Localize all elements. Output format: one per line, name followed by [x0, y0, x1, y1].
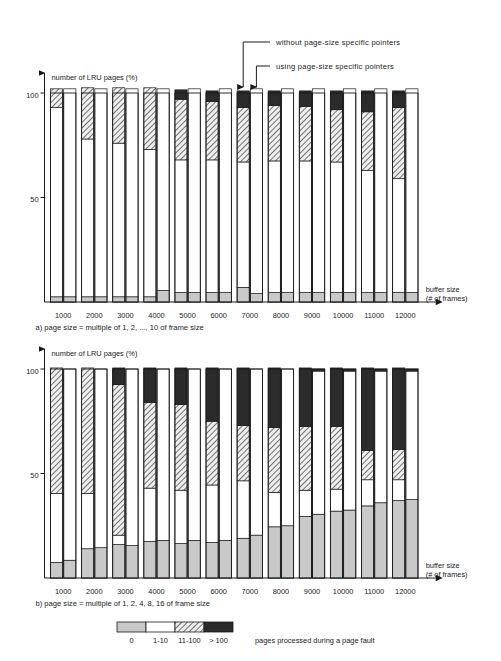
x-tick-label: 8000: [273, 587, 289, 596]
bar-segment: [113, 545, 125, 578]
bar-segment: [268, 161, 280, 293]
stacked-bar: [206, 368, 218, 578]
stacked-bar: [406, 89, 418, 302]
bar-segment: [175, 368, 187, 405]
chart-b-group: 50100number of LRU pages (%)buffer size(…: [26, 349, 467, 608]
bar-segment: [219, 369, 231, 540]
bar-segment: [82, 139, 94, 297]
bar-segment: [344, 293, 356, 302]
bar-segment: [299, 490, 311, 516]
bar-segment: [313, 89, 325, 293]
x-tick-label: 11000: [364, 311, 384, 320]
legend-swatch: [204, 622, 233, 632]
bar-segment: [175, 544, 187, 578]
bar-segment: [268, 293, 280, 302]
x-tick-label: 3000: [117, 311, 133, 320]
stacked-bar: [206, 91, 218, 302]
x-tick-label: 1000: [55, 587, 71, 596]
bar-segment: [95, 548, 107, 578]
bar-segment: [175, 490, 187, 543]
x-tick-label: 1000: [55, 311, 71, 320]
bar-segment: [362, 480, 374, 506]
bar-segment: [375, 89, 387, 293]
bar-segment: [268, 527, 280, 578]
stacked-bar: [64, 89, 76, 302]
bar-segment: [330, 511, 342, 578]
bar-segment: [113, 297, 125, 302]
stacked-bar: [313, 89, 325, 302]
bar-segment: [362, 91, 374, 112]
bar-segment: [268, 106, 280, 161]
bar-segment: [157, 540, 169, 578]
bar-segment: [82, 368, 94, 493]
stacked-bar: [144, 368, 156, 578]
bar-segment: [126, 89, 138, 297]
stacked-bar: [406, 369, 418, 578]
bar-segment: [206, 485, 218, 542]
bar-segment: [299, 426, 311, 490]
stacked-bar: [51, 368, 63, 578]
bar-segment: [144, 402, 156, 488]
x-axis-title-line1: buffer size: [426, 285, 460, 294]
bar-segment: [362, 451, 374, 480]
bar-segment: [344, 371, 356, 510]
stacked-bar: [268, 368, 280, 578]
stacked-bar: [330, 91, 342, 302]
bar-segment: [375, 293, 387, 302]
bar-segment: [51, 368, 63, 493]
stacked-bar: [281, 369, 293, 578]
bar-segment: [113, 368, 125, 385]
bar-segment: [206, 542, 218, 578]
stacked-bar: [113, 368, 125, 578]
bar-segment: [393, 480, 405, 501]
stacked-bar: [250, 369, 262, 578]
x-tick-label: 2000: [86, 587, 102, 596]
bar-segment: [175, 293, 187, 302]
stacked-bar: [237, 368, 249, 578]
bar-segment: [237, 538, 249, 578]
stacked-bar: [219, 89, 231, 302]
bar-segment: [206, 101, 218, 160]
stacked-bar: [393, 91, 405, 302]
x-tick-label: 4000: [148, 311, 164, 320]
bar-segment: [362, 112, 374, 171]
x-tick-label: 2000: [86, 311, 102, 320]
bar-segment: [144, 88, 156, 150]
bar-segment: [375, 503, 387, 578]
panel-caption: b) page size = multiple of 1, 2, 4, 8, 1…: [36, 599, 211, 608]
bar-segment: [362, 506, 374, 578]
stacked-bar: [268, 91, 280, 302]
bar-segment: [175, 405, 187, 491]
bar-segment: [250, 294, 262, 302]
x-tick-label: 12000: [395, 311, 416, 320]
bar-segment: [157, 291, 169, 302]
stacked-bar: [82, 88, 94, 302]
bar-segment: [237, 368, 249, 425]
stacked-bar: [51, 89, 63, 302]
bar-segment: [237, 425, 249, 480]
stacked-bar: [82, 368, 94, 578]
bar-segment: [313, 293, 325, 302]
stacked-bar: [113, 88, 125, 302]
stacked-bar: [362, 91, 374, 302]
stacked-bar: [375, 89, 387, 302]
bar-segment: [250, 535, 262, 578]
bar-segment: [375, 371, 387, 503]
bar-segment: [406, 293, 418, 302]
bar-segment: [362, 368, 374, 451]
bar-segment: [406, 371, 418, 500]
bar-segment: [206, 91, 218, 101]
bar-segment: [393, 108, 405, 179]
x-tick-label: 12000: [395, 587, 416, 596]
x-tick-label: 7000: [242, 311, 258, 320]
bar-segment: [206, 160, 218, 293]
legend-swatch: [175, 622, 204, 632]
stacked-bar: [330, 368, 342, 578]
stacked-bar: [375, 369, 387, 578]
bar-segment: [362, 293, 374, 302]
panel-caption: a) page size = multiple of 1, 2, ..., 10…: [36, 323, 204, 332]
bar-segment: [51, 108, 63, 297]
stacked-bar: [126, 89, 138, 302]
annotation-label-without: without page-size specific pointers: [275, 38, 400, 47]
bar-segment: [51, 493, 63, 562]
